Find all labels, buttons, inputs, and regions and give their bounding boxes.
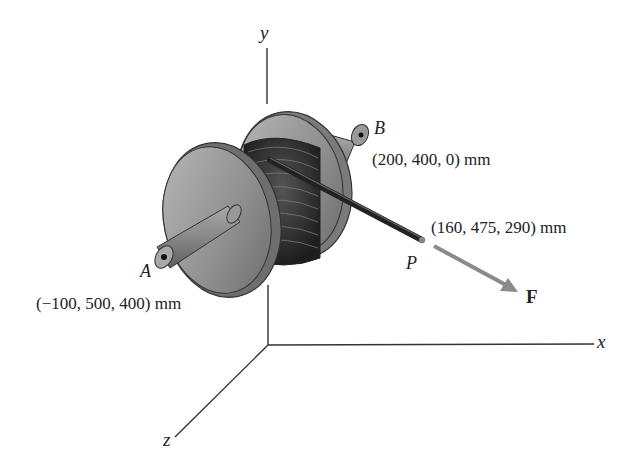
point-b-coords: (200, 400, 0) mm: [372, 150, 491, 170]
y-axis-label: y: [260, 22, 268, 44]
point-p-label: P: [406, 253, 417, 274]
point-a-label: A: [140, 261, 151, 282]
point-b-label: B: [374, 118, 385, 139]
point-p-coords: (160, 475, 290) mm: [431, 218, 567, 238]
z-axis-label: z: [163, 429, 170, 451]
z-axis: [175, 345, 268, 437]
diagram-canvas: y x z B (200, 400, 0) mm (160, 475, 290)…: [0, 0, 637, 469]
x-axis-label: x: [597, 331, 605, 353]
force-label: F: [526, 286, 538, 308]
force-arrow: [434, 246, 518, 292]
x-axis: [268, 344, 594, 345]
point-a-coords: (−100, 500, 400) mm: [36, 294, 181, 314]
